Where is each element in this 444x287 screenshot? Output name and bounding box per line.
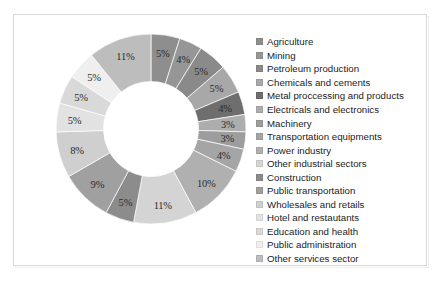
legend-color-swatch: [256, 65, 263, 72]
pie-slice-label: 4%: [217, 149, 231, 160]
pie-slice-label: 11%: [116, 51, 134, 62]
legend-color-swatch: [256, 147, 263, 154]
legend-item-label: Chemicals and cements: [267, 77, 370, 88]
pie-slice-label: 3%: [221, 133, 235, 144]
legend-item-label: Construction: [267, 172, 321, 183]
legend-item[interactable]: Metal proccessing and products: [256, 89, 436, 103]
legend-color-swatch: [256, 228, 263, 235]
legend-item-label: Petroleum production: [267, 63, 359, 74]
legend-item-label: Agriculture: [267, 36, 313, 47]
legend-item[interactable]: Other industrial sectors: [256, 157, 436, 171]
legend-item-label: Public administration: [267, 239, 356, 250]
donut-slices: [56, 34, 246, 224]
pie-slice-label: 9%: [91, 179, 105, 190]
pie-slice-label: 3%: [221, 119, 235, 130]
legend-item[interactable]: Public administration: [256, 238, 436, 252]
legend-item-label: Wholesales and retails: [267, 199, 364, 210]
legend-item-label: Metal proccessing and products: [267, 90, 404, 101]
legend-item-label: Hotel and restautants: [267, 212, 359, 223]
legend-color-swatch: [256, 187, 263, 194]
legend-color-swatch: [256, 106, 263, 113]
donut-svg: [55, 33, 247, 225]
pie-slice-label: 5%: [74, 91, 88, 102]
legend-color-swatch: [256, 79, 263, 86]
legend-color-swatch: [256, 160, 263, 167]
legend-item[interactable]: Transportation equipments: [256, 130, 436, 144]
legend-color-swatch: [256, 241, 263, 248]
pie-slice-label: 11%: [154, 200, 172, 211]
legend-item[interactable]: Chemicals and cements: [256, 76, 436, 90]
legend-item[interactable]: Education and health: [256, 225, 436, 239]
pie-slice-label: 8%: [70, 145, 84, 156]
legend-item[interactable]: Other services sector: [256, 252, 436, 266]
legend-color-swatch: [256, 255, 263, 262]
legend-color-swatch: [256, 120, 263, 127]
legend-item-label: Mining: [267, 50, 296, 61]
legend-color-swatch: [256, 92, 263, 99]
legend-item[interactable]: Agriculture: [256, 35, 436, 49]
pie-slice-label: 5%: [68, 114, 82, 125]
chart-legend: AgricultureMiningPetroleum productionChe…: [256, 35, 436, 265]
legend-color-swatch: [256, 52, 263, 59]
pie-slice-label: 4%: [176, 54, 190, 65]
pie-slice-label: 5%: [156, 47, 170, 58]
donut-chart: 5%4%5%5%4%3%3%4%10%11%5%9%8%5%5%5%11%: [55, 33, 247, 225]
legend-item[interactable]: Electricals and electronics: [256, 103, 436, 117]
legend-color-swatch: [256, 133, 263, 140]
pie-slice-label: 4%: [218, 102, 232, 113]
chart-page: 5%4%5%5%4%3%3%4%10%11%5%9%8%5%5%5%11% Ag…: [0, 0, 444, 287]
legend-item[interactable]: Power industry: [256, 143, 436, 157]
legend-item[interactable]: Wholesales and retails: [256, 198, 436, 212]
legend-item[interactable]: Petroleum production: [256, 62, 436, 76]
legend-color-swatch: [256, 201, 263, 208]
pie-slice-label: 10%: [197, 177, 216, 188]
legend-item[interactable]: Machinery: [256, 116, 436, 130]
legend-item-label: Other industrial sectors: [267, 158, 367, 169]
legend-item[interactable]: Mining: [256, 49, 436, 63]
legend-item[interactable]: Public transportation: [256, 184, 436, 198]
pie-slice-label: 5%: [87, 72, 101, 83]
legend-color-swatch: [256, 214, 263, 221]
legend-item[interactable]: Hotel and restautants: [256, 211, 436, 225]
legend-color-swatch: [256, 38, 263, 45]
pie-slice-label: 5%: [210, 83, 224, 94]
legend-item-label: Machinery: [267, 118, 312, 129]
legend-item-label: Power industry: [267, 145, 331, 156]
legend-item[interactable]: Construction: [256, 170, 436, 184]
legend-item-label: Other services sector: [267, 253, 359, 264]
legend-item-label: Electricals and electronics: [267, 104, 379, 115]
legend-item-label: Transportation equipments: [267, 131, 382, 142]
legend-item-label: Public transportation: [267, 185, 355, 196]
pie-slice-label: 5%: [119, 196, 133, 207]
legend-item-label: Education and health: [267, 226, 358, 237]
legend-color-swatch: [256, 174, 263, 181]
pie-slice-label: 5%: [194, 65, 208, 76]
